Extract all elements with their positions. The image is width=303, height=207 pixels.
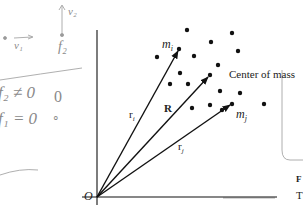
center-of-mass-point xyxy=(208,73,212,77)
vector-ri-arrow xyxy=(97,51,178,197)
vector-ri-subscript: i xyxy=(133,115,135,123)
axes xyxy=(82,30,277,205)
vector-R-arrow xyxy=(97,77,208,197)
mass-i-letter: m xyxy=(162,37,171,51)
mass-j-subscript: j xyxy=(245,114,247,123)
vector-ri-label: ri xyxy=(129,109,135,123)
diagram-canvas: O mi mj ri R rj Center of mass v₂ v₁ f₂ … xyxy=(0,0,303,207)
note-dot-mark: ∘ xyxy=(52,112,60,124)
mass-i-label: mi xyxy=(162,38,173,53)
pencil-sketch xyxy=(0,5,303,198)
vector-R-label: R xyxy=(164,103,172,114)
center-of-mass-label: Center of mass xyxy=(229,69,295,80)
vector-rj-label: rj xyxy=(178,141,184,155)
v1-arrow-icon xyxy=(14,37,32,38)
vector-rj-arrow xyxy=(97,105,230,197)
mass-i-subscript: i xyxy=(171,44,173,53)
diagram-svg xyxy=(0,0,303,207)
margin-t-prefix: T xyxy=(296,190,303,201)
vector-rj-subscript: j xyxy=(182,147,184,155)
particle-mi xyxy=(177,47,181,51)
note-zero-mark: 0 xyxy=(54,89,62,105)
note-v2: v₂ xyxy=(68,6,77,17)
note-f2-top: f₂ xyxy=(58,40,67,54)
mass-j-letter: m xyxy=(236,107,245,121)
note-f2-ne-zero: f₂ ≠ 0 xyxy=(0,84,35,101)
mass-j-label: mj xyxy=(236,108,247,123)
note-f1-eq-zero: f₁ = 0 xyxy=(0,110,37,127)
origin-label: O xyxy=(84,190,93,202)
margin-fig-prefix: F xyxy=(296,175,302,184)
particle-mj xyxy=(230,102,234,106)
note-v1: v₁ xyxy=(14,40,23,51)
